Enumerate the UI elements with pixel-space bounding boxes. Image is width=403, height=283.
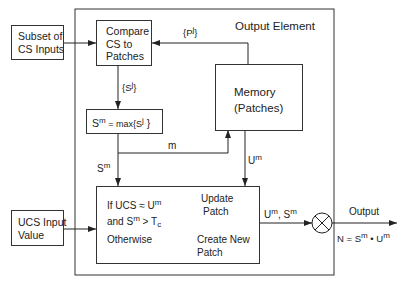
condition-line-2: and Sm > Tc [107, 216, 161, 228]
update-label-2: Patch [203, 206, 229, 218]
ucs-input-box: UCS Input Value [11, 210, 64, 246]
m-label: m [168, 140, 176, 152]
pj-label: {Pj} [183, 27, 197, 39]
otherwise-label: Otherwise [107, 234, 152, 246]
multiplier-icon [312, 213, 332, 233]
output-formula: N = Sm • Um [337, 233, 390, 245]
memory-label-1: Memory [234, 85, 276, 99]
update-label-1: Update [201, 193, 233, 205]
max-formula: Sm = max{Sj } [92, 117, 150, 130]
condition-line-1: If UCS ≈ Um [107, 200, 161, 212]
output-element-title: Output Element [235, 20, 315, 32]
um-label: Um [248, 155, 262, 167]
compare-label-3: Patches [106, 50, 144, 62]
compare-box: Compare CS to Patches [96, 20, 152, 66]
ucs-input-label-2: Value [18, 229, 44, 241]
max-box: Sm = max{Sj } [86, 109, 163, 134]
cs-inputs-box: Subset of CS Inputs [11, 25, 64, 60]
sj-label: {Sj} [122, 82, 136, 94]
create-label-1: Create New [197, 234, 250, 246]
decision-box: If UCS ≈ Um and Sm > Tc Otherwise Update… [96, 186, 260, 264]
create-label-2: Patch [197, 247, 223, 259]
ucs-input-label-1: UCS Input [18, 216, 66, 228]
um-sm-label: Um, Sm [264, 209, 297, 221]
memory-box: Memory (Patches) [215, 64, 303, 131]
compare-label-1: Compare [106, 25, 149, 37]
compare-label-2: CS to [106, 38, 132, 50]
cs-inputs-label-1: Subset of [18, 30, 62, 42]
cs-inputs-label-2: CS Inputs [18, 43, 64, 55]
output-label: Output [349, 206, 379, 218]
sm-label: Sm [97, 163, 110, 175]
memory-label-2: (Patches) [234, 101, 283, 115]
